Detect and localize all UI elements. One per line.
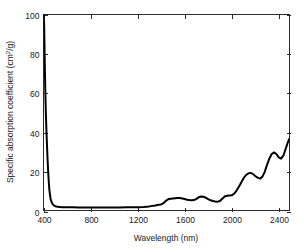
x-tick-label: 400 <box>37 215 51 225</box>
y-tick-label: 0 <box>35 208 40 218</box>
x-axis-title: Wavelength (nm) <box>134 233 199 243</box>
x-tick-label: 1600 <box>176 215 195 225</box>
y-axis-title-before: Specific absorption coefficient (cm <box>5 54 15 183</box>
y-tick-label: 80 <box>30 50 40 60</box>
y-axis-title-after: /g) <box>5 41 15 51</box>
chart-canvas: 4008001200160020002400 020406080100 Wave… <box>0 0 304 252</box>
y-tick-label: 100 <box>25 11 39 21</box>
y-tick-label: 20 <box>30 168 40 178</box>
x-tick-label: 1200 <box>129 215 148 225</box>
y-axis-title: Specific absorption coefficient (cm2/g) <box>4 41 16 183</box>
x-tick-label: 800 <box>84 215 98 225</box>
y-axis-title-group: Specific absorption coefficient (cm2/g) <box>4 41 16 183</box>
x-tick-label: 2000 <box>223 215 242 225</box>
figure-container: 4008001200160020002400 020406080100 Wave… <box>0 0 304 252</box>
y-tick-label: 40 <box>30 129 40 139</box>
y-tick-label: 60 <box>30 89 40 99</box>
x-tick-label: 2400 <box>270 215 289 225</box>
